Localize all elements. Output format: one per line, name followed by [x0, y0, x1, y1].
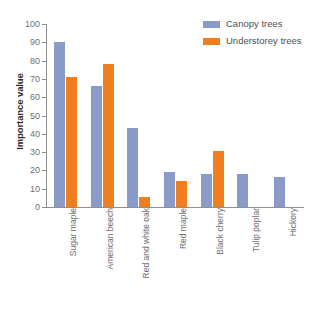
x-axis-label: Tulip poplar: [251, 208, 261, 252]
y-tick-mark: [42, 24, 46, 25]
bar-series-container: [47, 24, 304, 207]
y-tick-label: 100: [25, 20, 40, 29]
bar-group: [91, 24, 114, 207]
bar-canopy: [91, 86, 102, 207]
bar-understorey: [66, 77, 77, 207]
x-axis-label: Hickory: [288, 208, 298, 236]
bar-understorey: [103, 64, 114, 207]
bar-group: [164, 24, 187, 207]
legend-label: Understorey trees: [226, 36, 302, 46]
bar-chart-figure: Importance value 0102030405060708090100 …: [0, 0, 313, 311]
x-axis-label: Sugar maple: [68, 208, 78, 256]
x-axis-label: Red and white oak: [141, 208, 151, 278]
chart-legend: Canopy treesUnderstorey trees: [203, 17, 302, 51]
legend-swatch-icon: [203, 38, 220, 45]
bar-canopy: [127, 128, 138, 207]
bar-group: [274, 24, 297, 207]
bar-canopy: [274, 177, 285, 207]
y-tick-label: 40: [30, 129, 40, 138]
y-tick-mark: [42, 79, 46, 80]
y-tick-mark: [42, 170, 46, 171]
y-tick-label: 90: [30, 38, 40, 47]
bar-canopy: [237, 174, 248, 207]
bar-understorey: [213, 151, 224, 207]
legend-item: Understorey trees: [203, 34, 302, 48]
y-tick-mark: [42, 116, 46, 117]
y-tick-mark: [42, 42, 46, 43]
y-tick-label: 50: [30, 111, 40, 120]
y-tick-label: 80: [30, 56, 40, 65]
y-tick-mark: [42, 61, 46, 62]
y-tick-mark: [42, 134, 46, 135]
y-tick-label: 30: [30, 148, 40, 157]
bar-canopy: [201, 174, 212, 207]
legend-item: Canopy trees: [203, 17, 302, 31]
legend-swatch-icon: [203, 21, 220, 28]
bar-canopy: [54, 42, 65, 207]
plot-area: 0102030405060708090100: [46, 24, 304, 207]
y-tick-mark: [42, 152, 46, 153]
y-tick-label: 10: [30, 184, 40, 193]
x-axis-label: American beech: [105, 208, 115, 269]
y-tick-label: 20: [30, 166, 40, 175]
x-axis-label: Red maple: [178, 208, 188, 249]
x-axis-labels: Sugar mapleAmerican beechRed and white o…: [46, 208, 304, 308]
y-tick-mark: [42, 97, 46, 98]
bar-group: [54, 24, 77, 207]
y-tick-mark: [42, 189, 46, 190]
bar-understorey: [176, 181, 187, 207]
bar-group: [127, 24, 150, 207]
y-tick-label: 60: [30, 93, 40, 102]
y-axis-title: Importance value: [14, 52, 25, 172]
y-tick-label: 70: [30, 74, 40, 83]
bar-group: [237, 24, 260, 207]
x-axis-label: Black cherry: [215, 208, 225, 255]
legend-label: Canopy trees: [226, 19, 283, 29]
y-tick-label: 0: [35, 203, 40, 212]
bar-understorey: [139, 197, 150, 207]
bar-group: [201, 24, 224, 207]
bar-canopy: [164, 172, 175, 207]
